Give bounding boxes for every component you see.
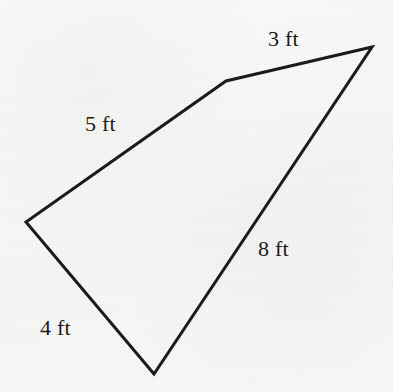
quadrilateral-outline — [26, 47, 372, 374]
side-label-4ft: 4 ft — [40, 317, 71, 339]
side-label-3ft: 3 ft — [268, 28, 299, 50]
side-label-8ft: 8 ft — [258, 238, 289, 260]
side-label-5ft: 5 ft — [85, 113, 116, 135]
figure-canvas: 3 ft 5 ft 8 ft 4 ft — [0, 0, 393, 392]
